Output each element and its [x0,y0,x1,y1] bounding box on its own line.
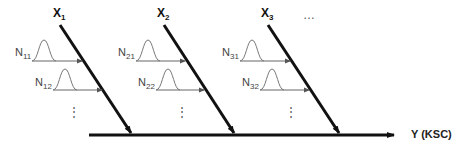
fishbone-diagram [0,0,464,150]
noise-n21 [136,40,185,61]
bone-x3 [268,25,339,133]
noise-label-n12: N12 [35,76,52,91]
noise-label-n22: N22 [138,76,155,91]
more-causes-ellipsis: … [303,8,316,22]
noise-n11 [32,40,82,61]
output-label: Y (KSC) [411,128,452,140]
more-noises-x2: ⋮ [176,105,189,119]
more-noises-x1: ⋮ [68,105,81,119]
noise-n22 [156,69,204,90]
noise-label-n21: N21 [118,46,135,61]
noise-label-n11: N11 [15,46,31,61]
bone-x2 [164,25,234,133]
cause-label-x3: X3 [261,6,273,22]
cause-label-x1: X1 [53,6,65,22]
cause-label-x2: X2 [157,6,169,22]
noise-label-n32: N32 [242,76,259,91]
noise-n32 [260,69,309,90]
noise-label-n31: N31 [222,46,239,61]
more-noises-x3: ⋮ [285,105,298,119]
noise-n31 [240,40,290,61]
